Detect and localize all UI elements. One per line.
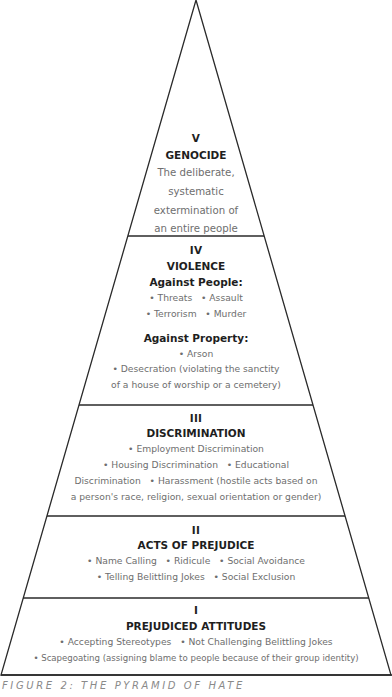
- level-text: • Arson: [0, 346, 392, 362]
- figure-caption: FIGURE 2: THE PYRAMID OF HATE: [2, 680, 245, 691]
- level-text: • Threats • Assault: [0, 290, 392, 306]
- level-text: • Housing Discrimination • Educational: [0, 457, 392, 473]
- level-title: GENOCIDE: [0, 147, 392, 163]
- level-numeral: I: [0, 602, 392, 618]
- level-title: PREJUDICED ATTITUDES: [0, 618, 392, 634]
- level-numeral: III: [0, 410, 392, 426]
- level-text: • Terrorism • Murder: [0, 306, 392, 322]
- level-text: extermination of: [0, 203, 392, 219]
- level-text: • Employment Discrimination: [0, 441, 392, 457]
- level-text: • Desecration (violating the sanctity: [0, 361, 392, 377]
- group-heading-property: Against Property:: [0, 330, 392, 346]
- level-numeral: V: [0, 130, 392, 146]
- level-text: a person's race, religion, sexual orient…: [0, 489, 392, 505]
- level-text: • Scapegoating (assigning blame to peopl…: [0, 650, 392, 666]
- level-text: • Accepting Stereotypes • Not Challengin…: [0, 634, 392, 650]
- level-numeral: II: [0, 522, 392, 538]
- group-heading-people: Against People:: [0, 274, 392, 290]
- level-title: DISCRIMINATION: [0, 425, 392, 441]
- level-text: systematic: [0, 184, 392, 200]
- level-text: an entire people: [0, 221, 392, 237]
- level-text: The deliberate,: [0, 165, 392, 181]
- level-title: ACTS OF PREJUDICE: [0, 537, 392, 553]
- level-numeral: IV: [0, 242, 392, 258]
- level-text: Discrimination • Harassment (hostile act…: [0, 473, 392, 489]
- level-text: of a house of worship or a cemetery): [0, 377, 392, 393]
- level-title: VIOLENCE: [0, 258, 392, 274]
- level-text: • Name Calling • Ridicule • Social Avoid…: [0, 553, 392, 569]
- level-text: • Telling Belittling Jokes • Social Excl…: [0, 569, 392, 585]
